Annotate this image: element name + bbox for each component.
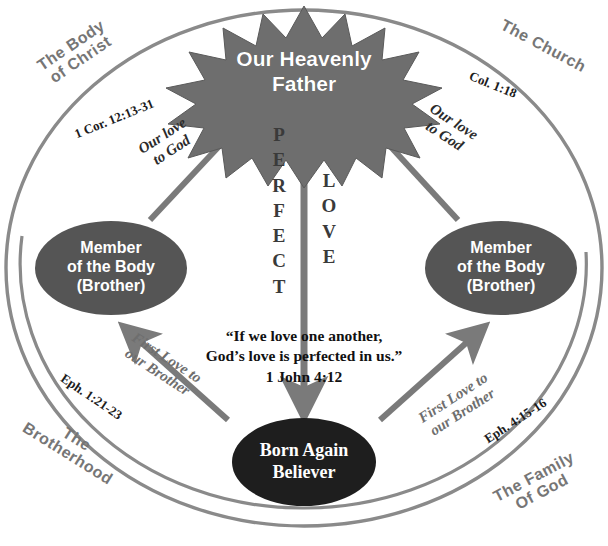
center-quote: “If we love one another, God’s love is p… xyxy=(186,326,422,387)
quote-line-2: God’s love is perfected in us.” xyxy=(186,346,422,366)
born-again-label: Born Again Believer xyxy=(234,440,374,483)
diagram-canvas: Our Heavenly Father Member of the Body (… xyxy=(0,0,608,546)
member-right-label: Member of the Body (Brother) xyxy=(421,238,581,296)
quote-line-1: “If we love one another, xyxy=(186,326,422,346)
love-vertical-text: L O V E xyxy=(318,168,340,269)
heavenly-father-label: Our Heavenly Father xyxy=(204,46,404,96)
member-left-label: Member of the Body (Brother) xyxy=(31,238,191,296)
perfect-vertical-text: P E R F E C T xyxy=(268,122,290,299)
